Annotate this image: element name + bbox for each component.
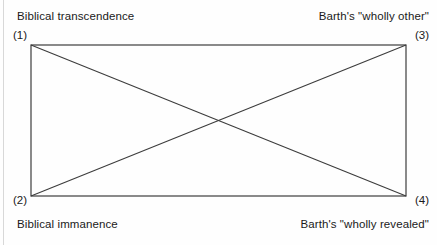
corner-number-3: (3) (415, 29, 429, 41)
caption-bottom-left: Biblical immanence (17, 218, 118, 230)
corner-number-4: (4) (415, 194, 429, 206)
corner-number-1: (1) (13, 29, 27, 41)
caption-top-left: Biblical transcendence (17, 10, 134, 22)
diagram-figure: Biblical transcendence Barth's "wholly o… (0, 0, 437, 245)
corner-number-2: (2) (13, 194, 27, 206)
caption-bottom-right: Barth's "wholly revealed" (300, 218, 429, 230)
rectangle-diagonals-graphic (0, 0, 437, 245)
caption-top-right: Barth's "wholly other" (319, 10, 429, 22)
